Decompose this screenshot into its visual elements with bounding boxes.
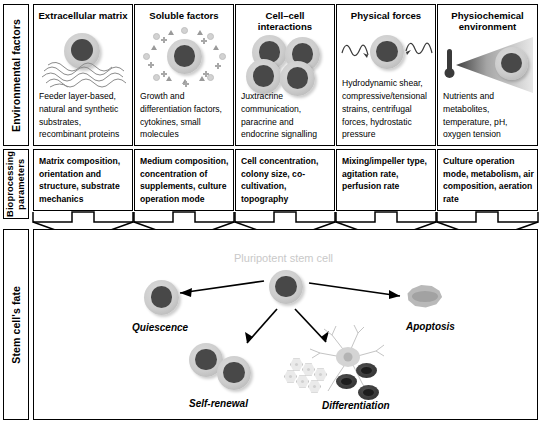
cell-cluster-icon (236, 35, 334, 95)
cell-with-soluble-molecules-icon (135, 27, 233, 89)
panel-medium-composition: Medium composition, concentration of sup… (134, 149, 234, 211)
panel-soluble-factors: Soluble factors Growth and diffe (134, 4, 234, 146)
panel-title: Extracellular matrix (37, 10, 129, 21)
panel-mixing-impeller: Mixing/impeller type, agitation rate, pe… (336, 149, 436, 211)
panel-cell-concentration: Cell concentration, colony size, co-cult… (235, 149, 335, 211)
panel-physiochemical-environment: Physiochemical environment Nutrients and… (437, 4, 538, 146)
panel-cell-cell-interactions: Cell–cell interactions Juxtracrine commu… (235, 4, 335, 146)
panel-extracellular-matrix: Extracellular matrix Feeder layer-based,… (33, 4, 133, 146)
panel-title: Physical forces (340, 10, 432, 21)
panel-description: Juxtracrine communication, paracrine and… (241, 90, 331, 141)
panel-description: Growth and differentiation factors, cyto… (140, 90, 230, 141)
row-label-environmental-factors: Environmental factors (3, 4, 29, 146)
panel-physical-forces: Physical forces Hydrodynamic shear, comp… (336, 4, 436, 146)
panel-title: Soluble factors (138, 10, 230, 21)
panel-description: Cell concentration, colony size, co-cult… (241, 155, 331, 206)
panel-title: Physiochemical environment (441, 10, 534, 33)
cell-with-shear-waves-icon (337, 31, 435, 75)
fate-label-self-renewal: Self-renewal (189, 398, 248, 409)
panel-description: Culture operation mode, metabolism, air … (443, 155, 534, 206)
fate-label-quiescence: Quiescence (132, 322, 188, 333)
panel-description: Matrix composition, orientation and stru… (39, 155, 129, 206)
panel-description: Mixing/impeller type, agitation rate, pe… (342, 155, 432, 193)
stem-cell-bioprocessing-diagram: Environmental factors Bioprocessingparam… (0, 0, 541, 424)
panel-culture-operation: Culture operation mode, metabolism, air … (437, 149, 538, 211)
fate-label-apoptosis: Apoptosis (406, 321, 455, 332)
panel-description: Medium composition, concentration of sup… (140, 155, 230, 206)
row-label-text: Environmental factors (10, 19, 22, 132)
panel-stem-cell-fate: Pluripotent stem cell (33, 229, 538, 420)
single-cell-icon (144, 280, 179, 315)
thermometer-gradient-cell-icon (438, 35, 537, 95)
row-label-text: Stem cell's fate (10, 286, 22, 364)
panel-matrix-composition: Matrix composition, orientation and stru… (33, 149, 133, 211)
panel-description: Hydrodynamic shear, compressive/tensiona… (342, 77, 432, 141)
panel-title: Cell–cell interactions (239, 10, 331, 33)
fate-label-differentiation: Differentiation (322, 400, 390, 411)
cell-on-fiber-matrix-icon (34, 31, 132, 89)
row-label-stem-cells-fate: Stem cell's fate (3, 229, 29, 420)
panel-description: Nutrients and metabolites, temperature, … (443, 90, 534, 141)
panel-description: Feeder layer-based, natural and syntheti… (39, 90, 129, 141)
